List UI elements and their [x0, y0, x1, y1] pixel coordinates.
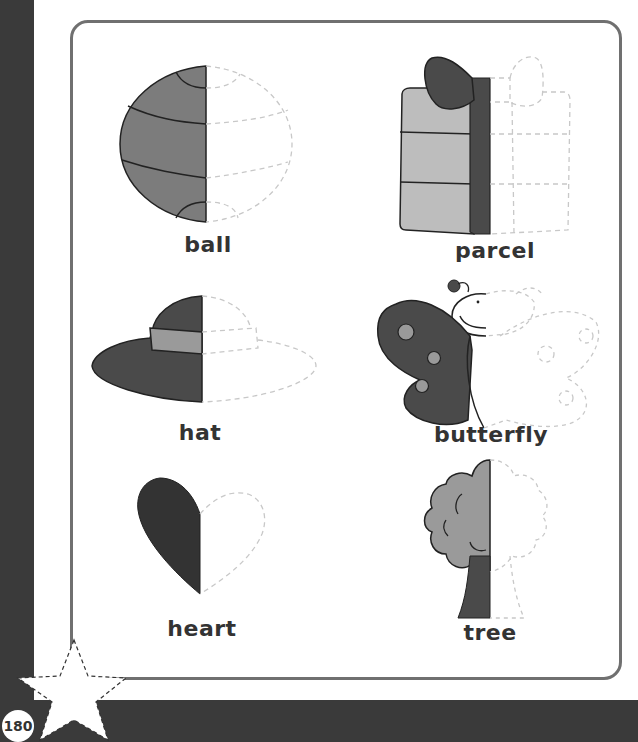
item-label-heart: heart — [152, 616, 252, 641]
item-label-tree: tree — [440, 620, 540, 645]
tree-half-icon — [414, 458, 594, 628]
butterfly-half-icon — [376, 280, 616, 430]
left-frame-bar — [0, 0, 34, 742]
page-number-badge: 180 — [2, 710, 34, 742]
item-label-parcel: parcel — [440, 238, 550, 263]
item-label-ball: ball — [158, 232, 258, 257]
parcel-half-icon — [396, 52, 576, 242]
ball-half-icon — [118, 62, 298, 227]
item-label-butterfly: butterfly — [416, 422, 566, 447]
item-label-hat: hat — [150, 420, 250, 445]
heart-half-icon — [136, 474, 276, 604]
hat-half-icon — [90, 294, 330, 414]
